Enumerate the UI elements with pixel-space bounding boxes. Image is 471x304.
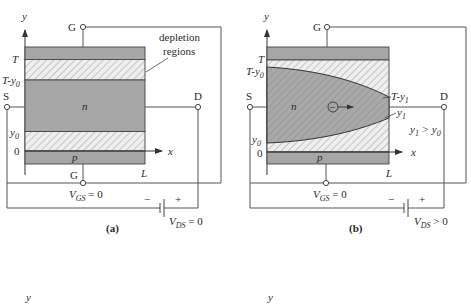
gate-top-terminal-a[interactable] — [80, 24, 85, 29]
top-depletion-region-a — [25, 60, 145, 81]
x-axis-label-b: x — [410, 146, 416, 158]
panel-b: y x T T-y0 y0 0 T-y1 y1 y1 > y0 n − p L … — [246, 10, 466, 235]
source-label-a: S — [3, 90, 9, 102]
length-label-a: L — [140, 167, 147, 179]
bottom-fragment-left: y — [25, 291, 31, 303]
level-T-y0-a: T-y0 — [2, 74, 20, 89]
caption-b: (b) — [349, 222, 363, 235]
gate-top-label-a: G — [68, 21, 76, 33]
jfet-figure-svg: y x T T-y0 y0 0 n p L depletion regions … — [0, 0, 471, 304]
level-T-y1-b: T-y1 — [391, 90, 409, 105]
p-gate-region-a — [25, 151, 145, 164]
gate-top-terminal-b[interactable] — [324, 24, 329, 29]
drain-terminal-b[interactable] — [441, 104, 446, 109]
p-label-b: p — [316, 151, 323, 163]
level-y1-b: y1 — [396, 106, 406, 121]
vgs-label-b: VGS = 0 — [313, 188, 347, 203]
annotation-regions-a: regions — [163, 45, 195, 57]
level-T-y0-b: T-y0 — [246, 65, 264, 80]
caption-a: (a) — [106, 222, 119, 235]
level-zero-b: 0 — [257, 147, 263, 159]
channel-label-a: n — [82, 100, 88, 112]
battery-plus-a: + — [175, 193, 181, 205]
top-gate-region-a — [25, 47, 145, 60]
jfet-diagram: y x T T-y0 y0 0 n p L depletion regions … — [0, 0, 471, 304]
level-T-b: T — [258, 53, 265, 65]
bottom-depletion-region-a — [25, 132, 145, 152]
channel-label-b: n — [291, 100, 297, 112]
source-terminal-a[interactable] — [4, 104, 9, 109]
level-zero-a: 0 — [14, 145, 20, 157]
vds-label-b: VDS > 0 — [414, 215, 448, 230]
gate-bottom-terminal-a[interactable] — [80, 180, 85, 185]
gate-bottom-label-a: G — [70, 169, 78, 181]
p-gate-region-b — [267, 152, 389, 164]
drain-terminal-a[interactable] — [195, 104, 200, 109]
y-axis-label-a: y — [21, 10, 27, 22]
battery-minus-b: − — [388, 193, 394, 205]
level-T-a: T — [12, 53, 19, 65]
source-label-b: S — [246, 90, 252, 102]
source-terminal-b[interactable] — [247, 104, 252, 109]
inequality-label-b: y1 > y0 — [409, 123, 441, 138]
gate-top-label-b: G — [313, 21, 321, 33]
level-y0-b: y0 — [251, 133, 261, 148]
battery-minus-a: − — [144, 193, 150, 205]
vds-label-a: VDS = 0 — [169, 215, 203, 230]
top-gate-region-b — [267, 47, 389, 60]
gate-bottom-terminal-b[interactable] — [323, 180, 328, 185]
annotation-depletion-a: depletion — [159, 31, 200, 43]
annotation-leader-a — [146, 58, 168, 72]
drain-label-a: D — [194, 90, 202, 102]
length-label-b: L — [385, 167, 392, 179]
electron-symbol-b: − — [329, 101, 335, 113]
p-label-a: p — [71, 151, 78, 163]
battery-plus-b: + — [419, 193, 425, 205]
level-y0-a: y0 — [9, 126, 19, 141]
vgs-label-a: VGS = 0 — [69, 188, 103, 203]
y-axis-label-b: y — [263, 10, 269, 22]
panel-a: y x T T-y0 y0 0 n p L depletion regions … — [2, 10, 221, 235]
bottom-fragment-right: y — [267, 291, 273, 303]
x-axis-label-a: x — [167, 145, 173, 157]
drain-label-b: D — [440, 90, 448, 102]
